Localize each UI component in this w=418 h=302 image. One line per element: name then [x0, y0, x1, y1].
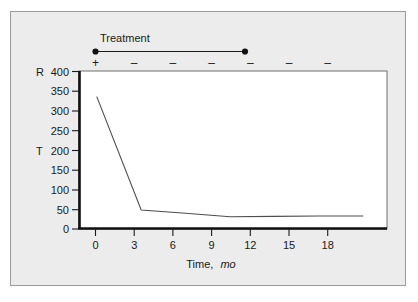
y-tick-label: 100 [51, 184, 69, 196]
y-tick-label: 350 [51, 85, 69, 97]
y-tick-label: 300 [51, 105, 69, 117]
x-axis-title-main: Time, [186, 258, 213, 270]
treatment-sign: – [131, 56, 138, 70]
y-axis-letter-r: R [36, 66, 44, 78]
x-tick-label: 3 [131, 239, 137, 251]
treatment-bar-start-dot [92, 48, 98, 54]
treatment-sign: – [170, 56, 177, 70]
y-axis-ticks [72, 72, 79, 230]
x-tick-label: 15 [283, 239, 295, 251]
y-axis-letter-t: T [36, 145, 43, 157]
x-tick-label: 0 [92, 239, 98, 251]
x-tick-label: 9 [209, 239, 215, 251]
treatment-annotation: Treatment [92, 32, 248, 55]
y-tick-label: 150 [51, 164, 69, 176]
chart-area: 400 350 300 250 200 150 100 50 0 R T [11, 12, 407, 287]
y-axis-tick-labels: 400 350 300 250 200 150 100 50 0 [51, 66, 69, 236]
treatment-sign: – [247, 56, 254, 70]
x-axis-title-unit: mo [220, 258, 235, 270]
plot-frame [79, 71, 387, 229]
x-tick-label: 12 [244, 239, 256, 251]
x-tick-label: 6 [170, 239, 176, 251]
y-axis-label-letters: R T [36, 66, 44, 157]
y-tick-label: 400 [51, 66, 69, 78]
line-chart: 400 350 300 250 200 150 100 50 0 R T [11, 12, 407, 287]
treatment-sign: – [324, 56, 331, 70]
y-tick-label: 50 [57, 204, 69, 216]
treatment-sign: – [208, 56, 215, 70]
treatment-sign: – [286, 56, 293, 70]
treatment-bar-end-dot [242, 48, 248, 54]
x-axis-title: Time, mo [186, 258, 235, 270]
x-tick-label: 18 [322, 239, 334, 251]
y-tick-label: 200 [51, 145, 69, 157]
y-tick-label: 250 [51, 125, 69, 137]
y-tick-label: 0 [63, 223, 69, 235]
treatment-sign: + [92, 56, 99, 70]
x-axis-ticks [96, 229, 328, 236]
x-axis-tick-labels: 0 3 6 9 12 15 18 [92, 239, 333, 251]
figure-panel: 400 350 300 250 200 150 100 50 0 R T [10, 11, 406, 286]
treatment-label: Treatment [100, 32, 150, 44]
treatment-sign-row: + – – – – – – [92, 56, 331, 70]
